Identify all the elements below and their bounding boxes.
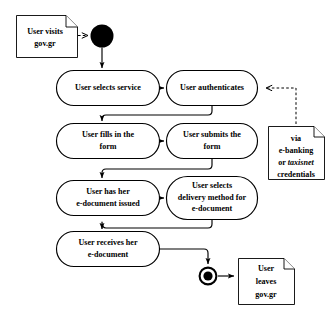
- activity-document-issued-line-2: e-document issued: [76, 199, 140, 208]
- note-credentials-line-4: credentials: [277, 170, 315, 179]
- note-credentials-line-3: or taxisnet: [278, 158, 314, 167]
- note-credentials-line-1: via: [291, 134, 301, 143]
- note-user-visits-line-1: User visits: [27, 27, 63, 36]
- anchor-note-credentials-to-authenticate: [266, 88, 296, 124]
- edge-submit-form-to-document-issued: [102, 159, 212, 178]
- final-node: [200, 268, 217, 285]
- activity-fill-form[interactable]: User fills in the form: [57, 124, 160, 159]
- activity-select-delivery-line-1: User selects: [192, 181, 232, 190]
- note-credentials: via e-banking or taxisnet credentials: [269, 127, 325, 180]
- note-credentials-line-2: e-banking: [279, 146, 314, 155]
- activity-document-issued[interactable]: User has her e-document issued: [57, 181, 160, 216]
- note-user-visits: User visits gov.gr: [17, 16, 78, 58]
- activity-fill-form-line-1: User fills in the: [82, 130, 135, 139]
- edge-select-delivery-to-receives-document: [102, 220, 212, 229]
- initial-node: [91, 25, 114, 48]
- edge-authenticate-to-fill-form: [102, 106, 212, 121]
- activity-submit-form-line-1: User submits the: [183, 130, 241, 139]
- activity-diagram: User visits gov.gr via e-banking or taxi…: [0, 0, 335, 313]
- activity-document-issued-line-1: User has her: [86, 187, 130, 196]
- activity-submit-form-line-2: form: [203, 142, 220, 151]
- note-user-visits-line-2: gov.gr: [34, 39, 56, 48]
- activity-fill-form-line-2: form: [99, 142, 116, 151]
- activity-select-delivery[interactable]: User selects delivery method for e-docum…: [167, 177, 258, 220]
- activity-select-delivery-line-3: e-document: [192, 204, 233, 213]
- edge-receives-document-to-final: [160, 249, 208, 264]
- activity-authenticate[interactable]: User authenticates: [167, 71, 258, 106]
- activity-submit-form[interactable]: User submits the form: [167, 124, 258, 159]
- note-user-leaves-line-1: User: [258, 264, 275, 273]
- activity-authenticate-label: User authenticates: [180, 83, 244, 92]
- note-user-leaves-line-3: gov.gr: [255, 290, 277, 299]
- activity-receives-document-line-1: User receives her: [78, 238, 137, 247]
- note-user-leaves-line-2: leaves: [256, 277, 277, 286]
- activity-select-service[interactable]: User selects service: [57, 71, 160, 106]
- activity-receives-document[interactable]: User receives her e-document: [57, 232, 160, 267]
- activity-select-service-label: User selects service: [75, 83, 141, 92]
- diagram-canvas: User visits gov.gr via e-banking or taxi…: [0, 0, 335, 313]
- activity-receives-document-line-2: e-document: [88, 250, 129, 259]
- note-user-leaves: User leaves gov.gr: [239, 259, 295, 305]
- activity-select-delivery-line-2: delivery method for: [178, 193, 247, 202]
